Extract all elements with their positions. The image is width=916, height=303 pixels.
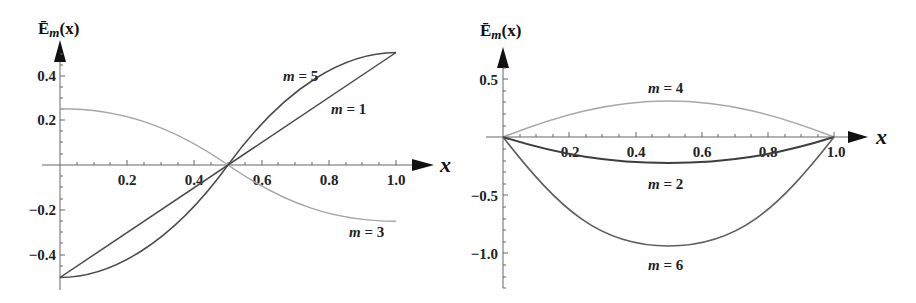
left-y-tick-0.4: 0.4 (37, 68, 56, 84)
left-x-axis-title: x (439, 152, 451, 177)
left-x-tick-1.0: 1.0 (387, 172, 406, 188)
right-x-ticks (520, 132, 834, 137)
left-x-axis-arrow-icon (412, 159, 434, 171)
right-y-ticks (503, 68, 508, 288)
right-y-axis-arrow-icon (497, 47, 509, 68)
label-m6: m = 6 (648, 257, 684, 273)
left-x-tick-0.2: 0.2 (118, 172, 137, 188)
right-x-axis-title: x (875, 124, 887, 149)
left-x-tick-0.8: 0.8 (320, 172, 339, 188)
right-y-tick-neg0.5: −0.5 (471, 188, 498, 204)
figure: 0.2 0.4 0.6 0.8 1.0 0.4 0.2 −0.2 −0.4 Ēm… (0, 0, 916, 303)
left-y-axis-arrow-icon (54, 40, 66, 62)
label-m4: m = 4 (648, 80, 684, 96)
left-y-axis-title: Ēm(x) (38, 19, 79, 40)
right-y-tick-neg1.0: −1.0 (471, 246, 498, 262)
right-x-tick-0.6: 0.6 (693, 144, 712, 160)
left-x-ticks (77, 160, 396, 165)
label-m1: m = 1 (331, 101, 366, 117)
right-x-tick-0.4: 0.4 (627, 144, 646, 160)
curve-m2 (503, 137, 834, 163)
left-x-tick-0.4: 0.4 (185, 172, 204, 188)
label-m2: m = 2 (648, 176, 683, 192)
curve-m4 (503, 101, 834, 137)
right-y-axis-title: Ēm(x) (480, 21, 521, 42)
right-x-tick-1.0: 1.0 (827, 144, 846, 160)
left-y-tick-0.2: 0.2 (37, 112, 56, 128)
label-m3: m = 3 (349, 224, 384, 240)
left-y-tick-neg0.2: −0.2 (29, 202, 56, 218)
right-chart: 0.2 0.4 0.6 0.8 1.0 0.5 −0.5 −1.0 Ēm(x) … (471, 21, 887, 288)
right-y-tick-0.5: 0.5 (479, 72, 498, 88)
left-y-tick-neg0.4: −0.4 (29, 247, 57, 263)
left-chart: 0.2 0.4 0.6 0.8 1.0 0.4 0.2 −0.2 −0.4 Ēm… (29, 19, 451, 290)
right-x-axis-arrow-icon (848, 131, 868, 143)
label-m5: m = 5 (283, 68, 318, 84)
